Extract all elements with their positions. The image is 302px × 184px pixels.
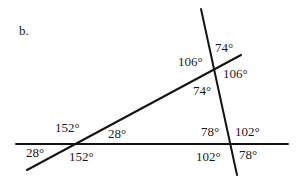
part-label: b. (19, 23, 29, 38)
angle-left-lower-right: 152° (69, 149, 94, 164)
angle-top-right-lower: 106° (223, 66, 248, 81)
angle-right-upper-right: 102° (235, 124, 260, 139)
angle-top-left-upper: 106° (178, 54, 203, 69)
angle-right-lower-left: 102° (196, 149, 221, 164)
angle-top-left-lower: 74° (193, 83, 211, 98)
angle-left-upper-right: 28° (108, 126, 126, 141)
angle-top-right-upper: 74° (215, 40, 233, 55)
angle-right-lower-right: 78° (239, 147, 257, 162)
angle-left-lower-left: 28° (26, 145, 44, 160)
angle-diagram: b. 74° 106° 106° 74° 152° 28° 28° 152° 7… (0, 0, 302, 184)
angle-right-upper-left: 78° (201, 124, 219, 139)
angle-left-upper-left: 152° (55, 120, 80, 135)
